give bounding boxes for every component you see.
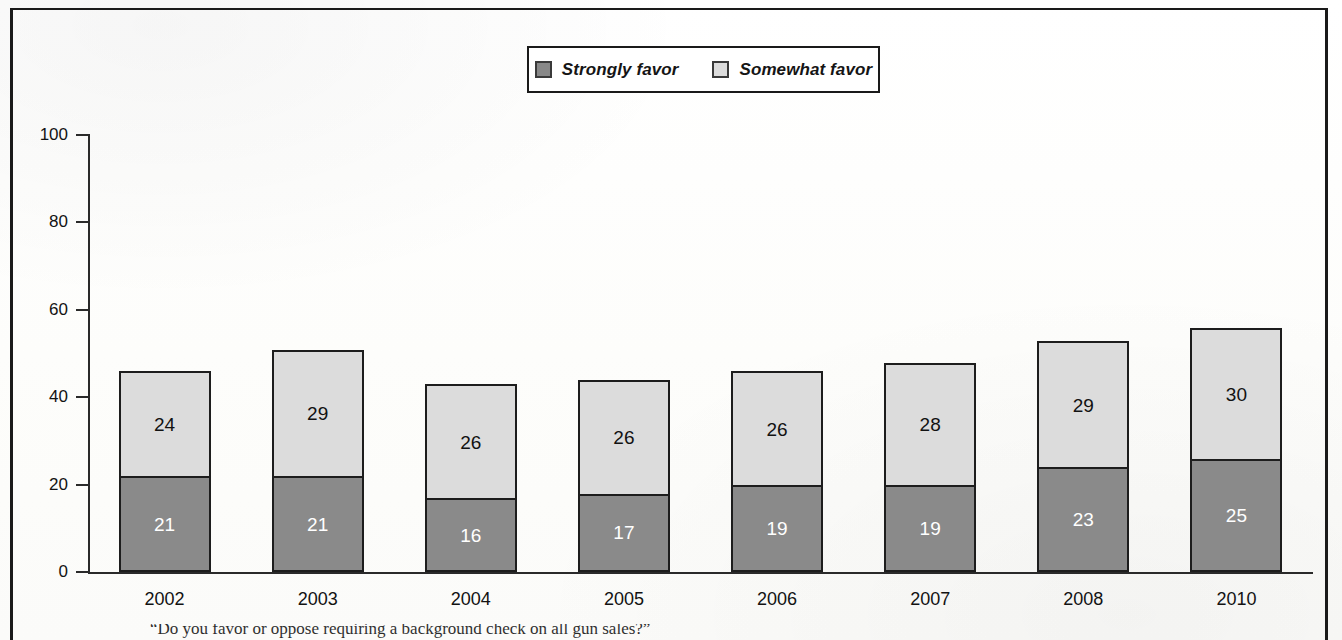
x-axis-category-label: 2007	[854, 590, 1007, 608]
figure-caption-text: “Do you favor or oppose requiring a back…	[150, 624, 1270, 639]
x-axis-category-label: 2003	[241, 590, 394, 608]
stacked-bar[interactable]: 2421	[119, 371, 211, 572]
bar-segment-strongly-favor[interactable]: 17	[580, 496, 668, 570]
bar-segment-strongly-favor[interactable]: 25	[1192, 461, 1280, 570]
bar-segment-somewhat-favor[interactable]: 28	[886, 365, 974, 487]
x-axis-category-label: 2006	[701, 590, 854, 608]
bar-segment-somewhat-favor[interactable]: 26	[427, 386, 515, 500]
x-axis-category-label: 2008	[1007, 590, 1160, 608]
x-axis-category-label: 2005	[547, 590, 700, 608]
bar-segment-somewhat-favor[interactable]: 29	[274, 352, 362, 479]
bar-segment-somewhat-favor[interactable]: 26	[733, 373, 821, 487]
stacked-bar[interactable]: 2921	[272, 350, 364, 573]
figure-canvas: Strongly favor Somewhat favor 0204060801…	[0, 0, 1342, 640]
figure-caption: “Do you favor or oppose requiring a back…	[150, 624, 1270, 640]
plot-area: 020406080100 452421200250292120034226162…	[0, 0, 1342, 640]
bar-segment-strongly-favor[interactable]: 23	[1039, 469, 1127, 570]
y-axis-tick-label: 60	[8, 301, 68, 318]
bar-segment-strongly-favor[interactable]: 19	[733, 487, 821, 570]
stacked-bar[interactable]: 2819	[884, 363, 976, 572]
y-axis-tick-label: 40	[8, 388, 68, 405]
x-axis-category-label: 2010	[1160, 590, 1313, 608]
bar-segment-somewhat-favor[interactable]: 29	[1039, 343, 1127, 470]
stacked-bar[interactable]: 2619	[731, 371, 823, 572]
stacked-bar[interactable]: 2617	[578, 380, 670, 572]
y-axis-tick-label: 0	[8, 563, 68, 580]
bar-segment-somewhat-favor[interactable]: 24	[121, 373, 209, 478]
bar-segment-strongly-favor[interactable]: 19	[886, 487, 974, 570]
stacked-bar[interactable]: 2616	[425, 384, 517, 572]
y-axis-tick-label: 20	[8, 476, 68, 493]
bar-segment-strongly-favor[interactable]: 16	[427, 500, 515, 570]
y-axis-tick-label: 80	[8, 213, 68, 230]
bar-segment-somewhat-favor[interactable]: 26	[580, 382, 668, 496]
y-axis-tick-label: 100	[8, 126, 68, 143]
x-axis-category-label: 2002	[88, 590, 241, 608]
bar-segment-somewhat-favor[interactable]: 30	[1192, 330, 1280, 461]
bar-segment-strongly-favor[interactable]: 21	[274, 478, 362, 570]
bar-series-container: 4524212002502921200342261620044326172005…	[88, 0, 1313, 640]
bar-segment-strongly-favor[interactable]: 21	[121, 478, 209, 570]
x-axis-category-label: 2004	[394, 590, 547, 608]
stacked-bar[interactable]: 2923	[1037, 341, 1129, 572]
stacked-bar[interactable]: 3025	[1190, 328, 1282, 572]
